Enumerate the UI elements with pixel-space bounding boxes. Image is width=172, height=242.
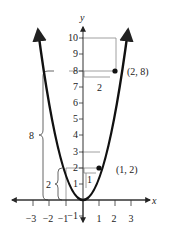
y-tick-label: 1 bbox=[73, 178, 78, 189]
y-tick-label: 9 bbox=[73, 48, 78, 59]
y-tick-label: 3 bbox=[73, 146, 78, 157]
brace-2 bbox=[55, 168, 62, 200]
brace-label-8: 8 bbox=[29, 130, 34, 141]
guide-box-top bbox=[82, 38, 116, 71]
y-tick-label: 4 bbox=[73, 129, 78, 140]
step-bracket-small bbox=[84, 168, 96, 173]
y-tick-label: 10 bbox=[68, 32, 78, 43]
y-tick-label: −1 bbox=[67, 210, 78, 221]
y-tick-label: 2 bbox=[73, 162, 78, 173]
x-tick-label: 2 bbox=[112, 213, 117, 224]
point-label-2-8: (2, 8) bbox=[127, 66, 149, 78]
x-tick-label: 1 bbox=[97, 213, 102, 224]
step-label-1: 1 bbox=[87, 174, 92, 185]
brace-label-2: 2 bbox=[46, 179, 51, 190]
x-tick-labels: −3 −2 −1 1 2 3 bbox=[26, 213, 134, 224]
y-ticks bbox=[79, 38, 83, 216]
x-axis-label: x bbox=[151, 195, 157, 206]
step-bracket-big bbox=[84, 71, 110, 77]
step-label-2: 2 bbox=[97, 82, 102, 93]
point-1-2 bbox=[96, 165, 101, 170]
point-2-8 bbox=[112, 68, 117, 73]
y-axis-label: y bbox=[79, 12, 85, 23]
y-tick-label: 6 bbox=[73, 97, 78, 108]
parabola-diagram: −3 −2 −1 1 2 3 −1 1 2 3 4 5 6 7 8 9 10 x… bbox=[0, 0, 172, 242]
x-tick-label: −3 bbox=[26, 213, 37, 224]
x-tick-label: 3 bbox=[129, 213, 134, 224]
y-tick-label: 8 bbox=[73, 65, 78, 76]
y-tick-label: 5 bbox=[73, 113, 78, 124]
axes bbox=[12, 27, 150, 222]
y-tick-label: 7 bbox=[73, 81, 78, 92]
point-label-1-2: (1, 2) bbox=[116, 164, 138, 176]
x-tick-label: −2 bbox=[43, 213, 54, 224]
